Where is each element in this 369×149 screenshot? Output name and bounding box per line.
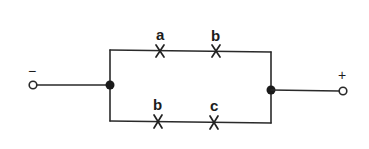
positive-terminal bbox=[339, 87, 347, 95]
positive-lead-wire bbox=[271, 90, 339, 91]
contact-c-bottom: c bbox=[210, 97, 218, 129]
contact-label: b bbox=[153, 96, 162, 113]
left-junction-dot bbox=[106, 81, 115, 90]
top-branch-wire bbox=[110, 50, 271, 52]
negative-terminal bbox=[29, 81, 37, 89]
contact-b-top: b bbox=[211, 27, 220, 57]
contact-label: c bbox=[210, 97, 218, 114]
bottom-branch-wire bbox=[110, 121, 271, 123]
positive-sign: + bbox=[338, 67, 346, 83]
circuit-diagram: − + a b b c bbox=[0, 0, 369, 149]
negative-sign: − bbox=[28, 63, 36, 79]
contact-b-bottom: b bbox=[153, 96, 162, 128]
contact-a-top: a bbox=[156, 26, 165, 57]
contact-label: b bbox=[211, 27, 220, 44]
contact-label: a bbox=[156, 26, 165, 43]
